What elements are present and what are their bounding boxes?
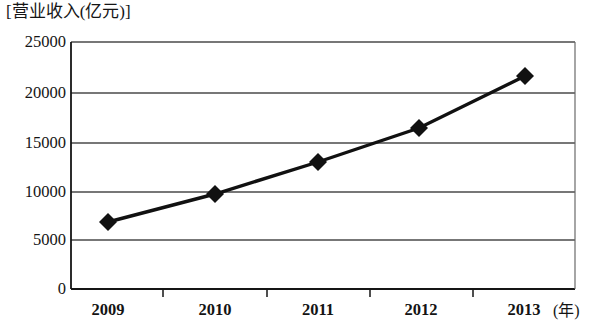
data-line-series-1	[108, 76, 525, 222]
y-tick-label-10000: 10000	[8, 184, 66, 200]
x-tick-label-2009: 2009	[92, 302, 125, 318]
y-tick-label-25000: 25000	[8, 34, 66, 50]
data-point-2010	[206, 185, 224, 203]
x-tick-label-2010: 2010	[199, 302, 232, 318]
y-tick-label-0: 0	[8, 281, 66, 297]
data-point-2013	[516, 67, 534, 85]
x-tick-label-2013: 2013	[508, 302, 541, 318]
x-axis-ticks	[163, 289, 473, 297]
y-tick-label-20000: 20000	[8, 85, 66, 101]
x-tick-label-2011: 2011	[302, 302, 334, 318]
y-tick-label-15000: 15000	[8, 135, 66, 151]
revenue-line-chart: [营业收入(亿元)]	[0, 0, 596, 332]
x-axis-unit-label: (年)	[553, 303, 580, 319]
data-point-2012	[410, 119, 428, 137]
y-tick-label-5000: 5000	[8, 232, 66, 248]
plot-area	[0, 0, 596, 332]
data-point-2011	[309, 153, 327, 171]
data-point-2009	[99, 213, 117, 231]
x-tick-label-2012: 2012	[405, 302, 438, 318]
